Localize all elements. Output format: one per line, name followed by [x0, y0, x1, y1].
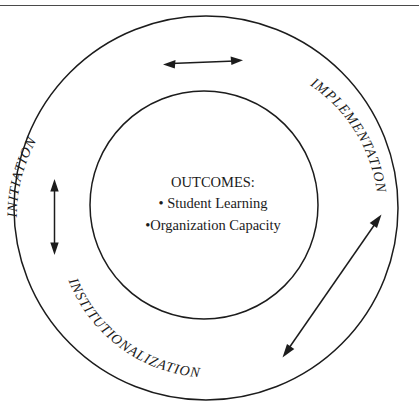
ring-label-initiation: INITIATION	[4, 133, 40, 218]
left-arrow-head-down	[50, 243, 58, 256]
diagonal-arrow-head-lower	[283, 344, 295, 358]
outcomes-heading: OUTCOMES:	[171, 174, 255, 190]
top-arrow	[163, 57, 243, 69]
top-arrow-head-left	[163, 60, 176, 68]
top-arrow-shaft	[171, 61, 235, 64]
ring-label-initiation-text: INITIATION	[4, 133, 40, 218]
left-arrow	[50, 179, 58, 255]
ring-label-implementation: IMPLEMENTATION	[307, 74, 390, 195]
outcome-item-student-learning: • Student Learning	[159, 195, 268, 211]
left-arrow-head-up	[50, 179, 58, 192]
ring-label-implementation-text: IMPLEMENTATION	[307, 74, 390, 195]
figure-container: INITIATION IMPLEMENTATION INSTITUTIONALI…	[0, 0, 419, 416]
cycle-diagram: INITIATION IMPLEMENTATION INSTITUTIONALI…	[0, 0, 419, 416]
top-arrow-head-right	[231, 57, 243, 65]
diagonal-arrow-head-upper	[370, 215, 382, 229]
diagonal-arrow-shaft	[289, 224, 375, 348]
ring-label-institutionalization-text: INSTITUTIONALIZATION	[65, 275, 202, 381]
outcome-item-organization-capacity: •Organization Capacity	[145, 217, 281, 233]
ring-label-institutionalization: INSTITUTIONALIZATION	[65, 275, 202, 381]
diagonal-arrow	[283, 215, 382, 358]
